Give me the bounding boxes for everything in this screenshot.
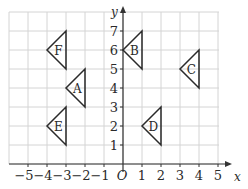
triangle-label: A — [72, 82, 82, 96]
y-tick-label: 4 — [110, 81, 118, 96]
triangle-label: C — [187, 63, 196, 77]
y-axis-label: y — [110, 5, 118, 19]
coordinate-grid-figure: xy −5−4−3−2−1123451234567O ABCDEF — [0, 0, 248, 189]
x-tick-label: 1 — [138, 168, 146, 183]
triangle-label: D — [149, 120, 159, 134]
origin-label: O — [117, 168, 128, 183]
y-tick-label: 5 — [110, 62, 118, 77]
x-axis-arrow-icon — [225, 161, 232, 167]
triangle-label: F — [54, 44, 62, 58]
triangle-label: B — [130, 44, 139, 58]
x-tick-label: 4 — [195, 168, 203, 183]
coordinate-plane: xy −5−4−3−2−1123451234567O ABCDEF — [0, 0, 248, 189]
y-axis-arrow-icon — [120, 6, 126, 13]
tick-labels: −5−4−3−2−1123451234567O — [14, 24, 222, 184]
x-tick-label: 3 — [176, 168, 184, 183]
x-tick-label: −5 — [14, 168, 33, 183]
x-tick-label: 5 — [214, 168, 222, 183]
y-tick-label: 7 — [110, 24, 118, 39]
axes: xy — [9, 5, 241, 184]
x-tick-label: −1 — [90, 168, 109, 183]
y-tick-label: 3 — [110, 100, 118, 115]
triangle-label: E — [54, 120, 63, 134]
x-tick-label: 2 — [157, 168, 165, 183]
x-axis-label: x — [234, 170, 241, 184]
x-tick-label: −2 — [71, 168, 90, 183]
y-tick-label: 2 — [110, 119, 118, 134]
x-tick-label: −4 — [33, 168, 52, 183]
y-tick-label: 6 — [110, 43, 118, 58]
x-tick-label: −3 — [52, 168, 71, 183]
y-tick-label: 1 — [110, 138, 118, 153]
